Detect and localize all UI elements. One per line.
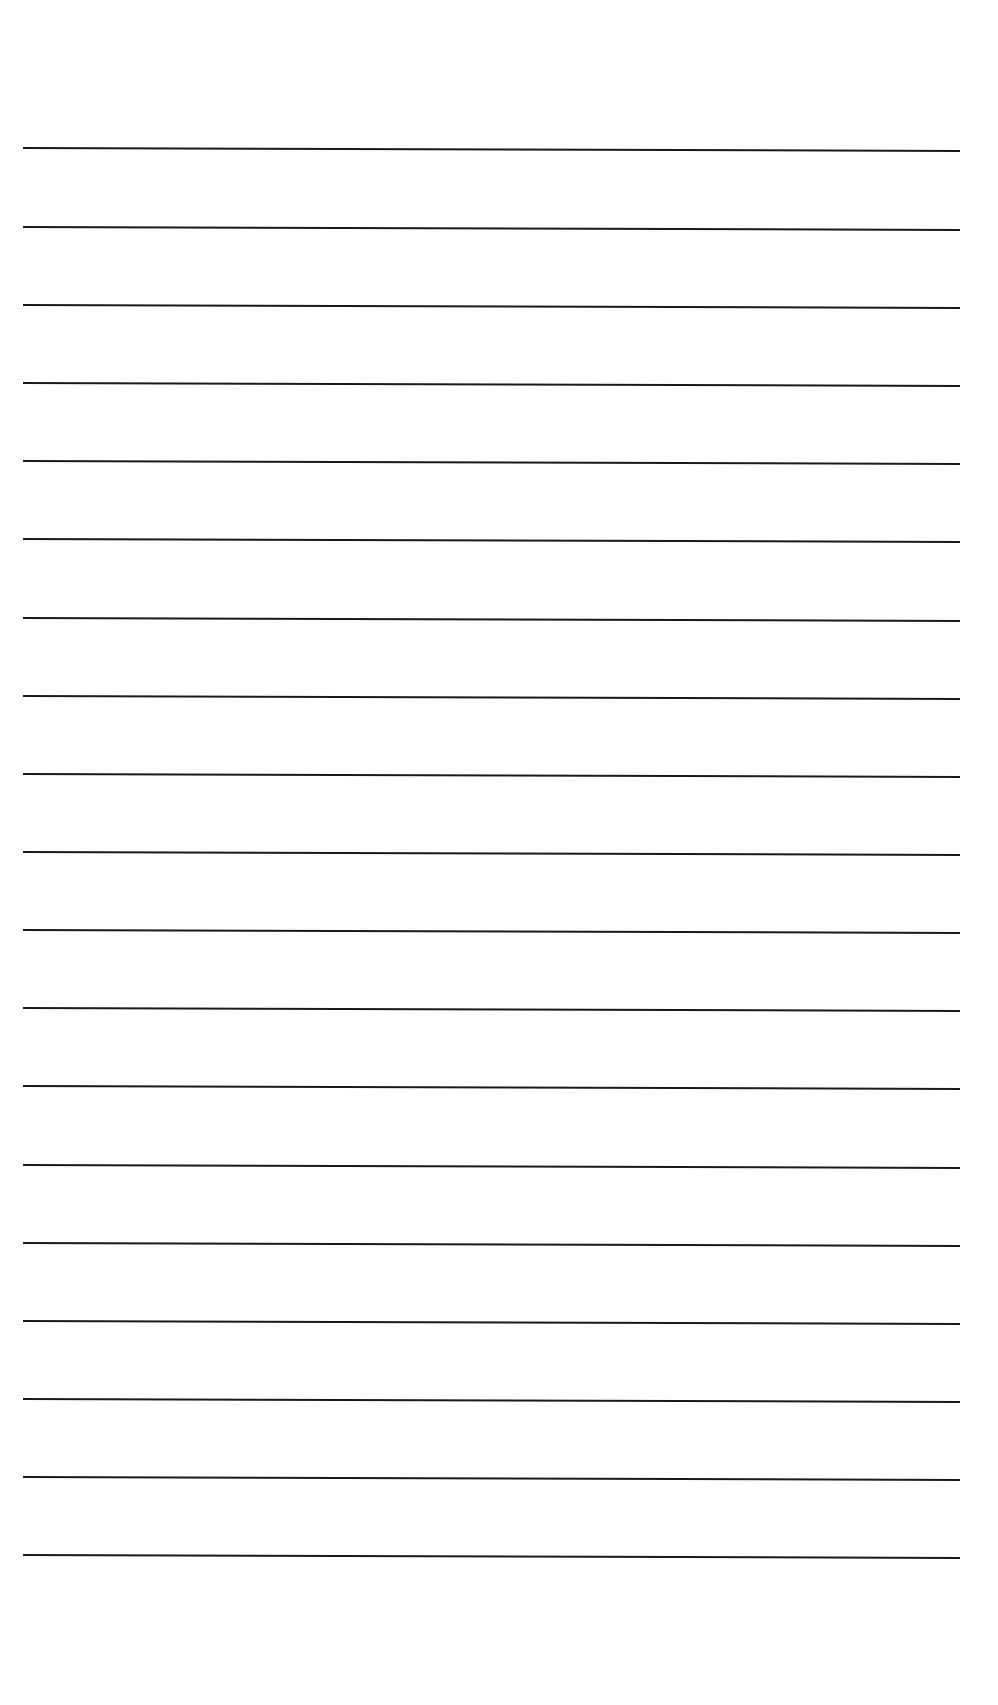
ruled-line	[23, 1321, 960, 1324]
ruled-line	[23, 1165, 960, 1168]
ruled-line	[23, 305, 960, 308]
ruled-page	[0, 0, 998, 1705]
ruled-line	[23, 227, 960, 230]
ruled-lines	[0, 0, 998, 1705]
ruled-line	[23, 383, 960, 386]
ruled-line	[23, 618, 960, 621]
ruled-line	[23, 539, 960, 542]
ruled-line	[23, 1555, 960, 1558]
ruled-line	[23, 930, 960, 933]
ruled-line	[23, 148, 960, 151]
ruled-line	[23, 1477, 960, 1480]
ruled-line	[23, 696, 960, 699]
ruled-line	[23, 1399, 960, 1402]
ruled-line	[23, 461, 960, 464]
ruled-line	[23, 1243, 960, 1246]
ruled-line	[23, 852, 960, 855]
ruled-line	[23, 1086, 960, 1089]
ruled-line	[23, 1008, 960, 1011]
ruled-line	[23, 774, 960, 777]
